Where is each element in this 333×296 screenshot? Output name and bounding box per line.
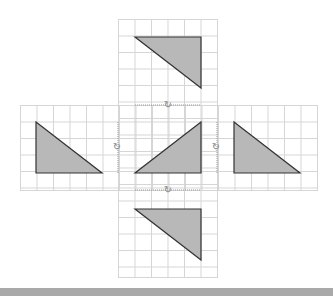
bottom-bar (0, 288, 333, 296)
rotation-arrow-icon-right: ↻ (211, 142, 221, 152)
rotation-arrow-icon-left: ↻ (112, 142, 122, 152)
triangle-top (135, 37, 201, 88)
triangle-left (36, 122, 102, 173)
triangles-layer (0, 0, 333, 296)
triangle-bottom (135, 209, 201, 260)
rotation-arrow-icon-top: ↻ (163, 100, 173, 110)
triangle-right (234, 122, 300, 173)
rotation-arrow-icon-bottom: ↻ (163, 185, 173, 195)
triangle-center (135, 122, 201, 173)
